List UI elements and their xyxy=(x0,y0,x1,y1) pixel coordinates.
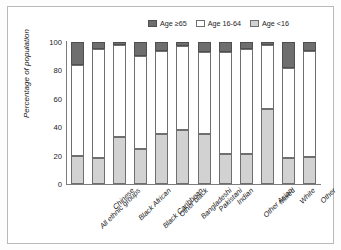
bar-segment-age-65-plus xyxy=(92,42,105,49)
bar-segment-age-16-64 xyxy=(113,45,126,137)
bar-segment-age-16-64 xyxy=(155,51,168,135)
bar-segment-age-under-16 xyxy=(92,158,105,184)
bar-group xyxy=(261,42,274,184)
bar-segment-age-under-16 xyxy=(176,130,189,184)
bar-segment-age-16-64 xyxy=(198,52,211,134)
y-tick-label: 0 xyxy=(58,180,62,189)
bar-group xyxy=(240,42,253,184)
bar-segment-age-65-plus xyxy=(155,42,168,51)
bar-segment-age-65-plus xyxy=(176,42,189,46)
y-tick-label: 80 xyxy=(54,66,62,75)
bar-segment-age-65-plus xyxy=(303,42,316,51)
bar-group xyxy=(92,42,105,184)
bar-segment-age-under-16 xyxy=(71,156,84,184)
y-tick-label: 20 xyxy=(54,151,62,160)
stacked-bar xyxy=(240,42,253,184)
bar-segment-age-65-plus xyxy=(240,42,253,49)
bar-segment-age-65-plus xyxy=(261,42,274,45)
legend-label-age-under-16: Age <16 xyxy=(262,20,289,27)
bar-group xyxy=(134,42,147,184)
stacked-bar xyxy=(219,42,232,184)
chart-screenshot: Age ≥65 Age 16-64 Age <16 Percentage of … xyxy=(0,0,341,250)
bar-segment-age-under-16 xyxy=(261,109,274,184)
legend-entry-age-16-64: Age 16-64 xyxy=(196,20,241,27)
x-tick-label: Other xyxy=(319,186,338,205)
y-tick-label: 40 xyxy=(54,123,62,132)
bar-segment-age-65-plus xyxy=(134,42,147,56)
bar-segment-age-under-16 xyxy=(240,154,253,184)
bar-segment-age-16-64 xyxy=(134,56,147,148)
legend-label-age-16-64: Age 16-64 xyxy=(208,20,241,27)
bar-segment-age-16-64 xyxy=(71,65,84,156)
legend-swatch-age-65-plus xyxy=(148,20,157,27)
plot-area xyxy=(67,42,320,184)
bar-segment-age-16-64 xyxy=(92,49,105,158)
bar-segment-age-65-plus xyxy=(71,42,84,65)
bar-segment-age-under-16 xyxy=(303,157,316,184)
bar-group xyxy=(155,42,168,184)
bar-segment-age-65-plus xyxy=(282,42,295,68)
legend-swatch-age-16-64 xyxy=(196,20,205,27)
stacked-bar xyxy=(134,42,147,184)
bar-group xyxy=(303,42,316,184)
x-axis-line xyxy=(66,184,321,185)
bar-segment-age-65-plus xyxy=(198,42,211,52)
stacked-bar xyxy=(282,42,295,184)
chart-frame: Age ≥65 Age 16-64 Age <16 Percentage of … xyxy=(7,6,334,244)
legend-entry-age-under-16: Age <16 xyxy=(250,20,289,27)
x-tick-label: Mixed xyxy=(277,186,297,206)
stacked-bar xyxy=(92,42,105,184)
bar-group xyxy=(113,42,126,184)
y-axis-tick-labels: 100806040200 xyxy=(41,42,62,184)
chart-legend: Age ≥65 Age 16-64 Age <16 xyxy=(148,20,289,27)
legend-swatch-age-under-16 xyxy=(250,20,259,27)
x-axis-tick-labels: All ethnic groupsChineseBlack AfricanBla… xyxy=(67,186,320,248)
bar-segment-age-65-plus xyxy=(113,42,126,45)
bar-group xyxy=(219,42,232,184)
legend-label-age-65-plus: Age ≥65 xyxy=(160,20,187,27)
bar-segment-age-16-64 xyxy=(303,51,316,158)
bar-segment-age-16-64 xyxy=(282,68,295,159)
legend-entry-age-65-plus: Age ≥65 xyxy=(148,20,187,27)
bar-segment-age-under-16 xyxy=(113,137,126,184)
stacked-bar xyxy=(71,42,84,184)
stacked-bar xyxy=(155,42,168,184)
bar-segment-age-under-16 xyxy=(155,134,168,184)
stacked-bar xyxy=(176,42,189,184)
bar-segment-age-65-plus xyxy=(219,42,232,52)
stacked-bar xyxy=(198,42,211,184)
y-tick-label: 60 xyxy=(54,94,62,103)
x-tick-label: White xyxy=(298,186,318,206)
bar-group xyxy=(71,42,84,184)
bar-group xyxy=(198,42,211,184)
bar-segment-age-under-16 xyxy=(134,149,147,185)
stacked-bar xyxy=(261,42,274,184)
bar-segment-age-under-16 xyxy=(282,158,295,184)
bar-segment-age-16-64 xyxy=(261,45,274,109)
bar-segment-age-under-16 xyxy=(219,154,232,184)
bar-group xyxy=(176,42,189,184)
bar-segment-age-16-64 xyxy=(240,49,253,154)
bar-group xyxy=(282,42,295,184)
bar-segment-age-16-64 xyxy=(176,46,189,130)
y-tick-label: 100 xyxy=(49,38,62,47)
stacked-bar xyxy=(303,42,316,184)
bar-segment-age-under-16 xyxy=(198,134,211,184)
y-axis-title: Percentage of population xyxy=(22,26,31,122)
bar-segment-age-16-64 xyxy=(219,52,232,154)
stacked-bar xyxy=(113,42,126,184)
